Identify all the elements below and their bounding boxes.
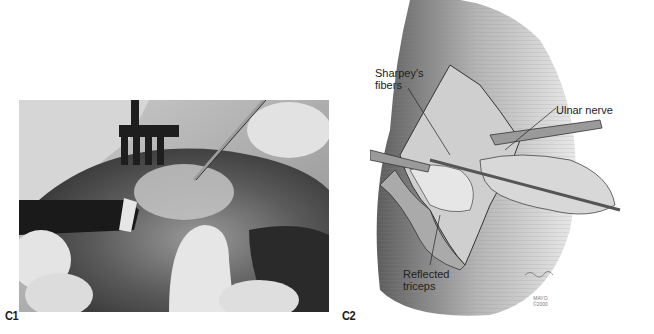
copyright-credit: MAYO ©2000 <box>533 295 548 307</box>
annotation-reflected-triceps: Reflected triceps <box>403 268 463 292</box>
annotation-sharpeys-fibers: Sharpey's fibers <box>375 67 445 91</box>
photo-c1 <box>19 100 329 312</box>
surgical-photo-graphic <box>19 100 329 312</box>
annotation-ulnar-nerve: Ulnar nerve <box>556 104 613 116</box>
credit-line-2: ©2000 <box>533 301 548 307</box>
panel-label-c2: C2 <box>342 308 355 323</box>
panel-label-c1: C1 <box>5 308 18 323</box>
